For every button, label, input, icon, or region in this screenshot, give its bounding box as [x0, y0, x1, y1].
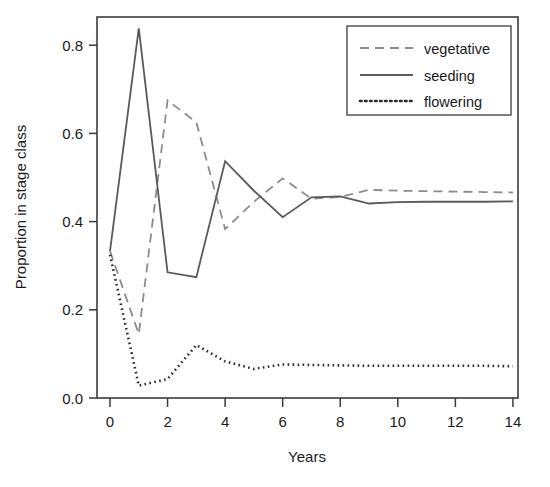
y-tick-label: 0.6 [62, 125, 83, 142]
y-axis-ticks: 0.00.20.40.60.8 [62, 37, 97, 407]
x-tick-label: 10 [389, 413, 406, 430]
x-tick-label: 4 [221, 413, 229, 430]
x-tick-label: 6 [279, 413, 287, 430]
x-tick-label: 14 [505, 413, 522, 430]
y-axis-title: Proportion in stage class [12, 125, 29, 289]
legend-label-flowering: flowering [424, 94, 482, 110]
x-tick-label: 2 [163, 413, 171, 430]
y-tick-label: 0.2 [62, 301, 83, 318]
x-tick-label: 0 [106, 413, 114, 430]
x-axis-ticks: 02468101214 [106, 398, 521, 430]
series-line-vegetative [110, 100, 513, 334]
legend: vegetativeseedingflowering [347, 26, 511, 115]
y-tick-label: 0.4 [62, 213, 83, 230]
y-tick-label: 0.0 [62, 390, 83, 407]
line-chart: 0.00.20.40.60.8 02468101214 Years Propor… [0, 0, 550, 487]
legend-label-vegetative: vegetative [424, 41, 490, 57]
legend-label-seeding: seeding [424, 68, 475, 84]
chart-figure: 0.00.20.40.60.8 02468101214 Years Propor… [0, 0, 550, 487]
x-tick-label: 12 [447, 413, 464, 430]
series-line-flowering [110, 255, 513, 386]
y-tick-label: 0.8 [62, 37, 83, 54]
x-axis-title: Years [288, 448, 326, 465]
x-tick-label: 8 [336, 413, 344, 430]
